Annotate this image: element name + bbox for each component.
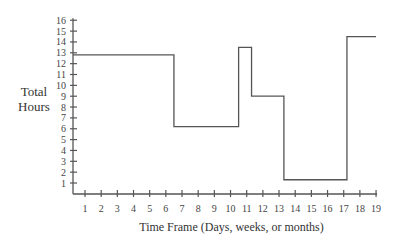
y-tick-label: 16 — [56, 15, 66, 26]
x-tick-label: 6 — [163, 203, 168, 214]
x-tick-label: 7 — [180, 203, 185, 214]
x-tick-label: 18 — [355, 203, 365, 214]
x-tick-label: 2 — [99, 203, 104, 214]
y-tick-label: 2 — [61, 167, 66, 178]
y-tick-label: 1 — [61, 178, 66, 189]
x-tick-label: 19 — [371, 203, 381, 214]
y-tick-label: 6 — [61, 123, 66, 134]
x-tick-label: 10 — [226, 203, 236, 214]
x-tick-label: 1 — [83, 203, 88, 214]
y-axis-ticks: 12345678910111213141516 — [56, 15, 77, 189]
x-tick-label: 15 — [306, 203, 316, 214]
axes — [73, 18, 377, 194]
y-tick-label: 5 — [61, 134, 66, 145]
x-axis-label: Time Frame (Days, weeks, or months) — [0, 220, 399, 235]
y-tick-label: 12 — [56, 58, 66, 69]
y-tick-label: 3 — [61, 156, 66, 167]
x-tick-label: 9 — [212, 203, 217, 214]
y-tick-label: 11 — [56, 69, 66, 80]
x-tick-label: 17 — [339, 203, 349, 214]
x-tick-label: 5 — [147, 203, 152, 214]
x-tick-label: 3 — [115, 203, 120, 214]
y-tick-label: 15 — [56, 26, 66, 37]
y-tick-label: 4 — [61, 145, 66, 156]
y-tick-label: 13 — [56, 47, 66, 58]
x-tick-label: 13 — [274, 203, 284, 214]
x-tick-label: 8 — [196, 203, 201, 214]
y-tick-label: 10 — [56, 80, 66, 91]
y-tick-label: 7 — [61, 112, 66, 123]
x-tick-label: 14 — [290, 203, 300, 214]
y-tick-label: 14 — [56, 36, 66, 47]
x-tick-label: 12 — [258, 203, 268, 214]
x-tick-label: 11 — [242, 203, 252, 214]
y-tick-label: 8 — [61, 102, 66, 113]
data-series-step-line — [73, 37, 376, 180]
y-tick-label: 9 — [61, 91, 66, 102]
x-tick-label: 4 — [131, 203, 136, 214]
x-tick-label: 16 — [323, 203, 333, 214]
step-chart: 12345678910111213141516 1234567891011121… — [0, 0, 399, 242]
